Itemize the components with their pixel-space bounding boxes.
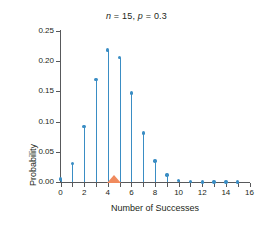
- stem-line: [84, 127, 85, 182]
- data-point: [59, 177, 62, 180]
- stem-line: [120, 58, 121, 182]
- mean-marker-triangle: [107, 175, 121, 183]
- y-tick-label: 0.15: [24, 86, 54, 95]
- data-point: [71, 162, 74, 165]
- x-tick: [179, 183, 180, 187]
- binomial-distribution-figure: n = 15, p = 0.3 0.000.050.100.150.200.25…: [0, 0, 273, 228]
- data-point: [106, 48, 109, 51]
- x-tick: [72, 183, 73, 187]
- x-tick-label: 12: [192, 188, 212, 197]
- x-tick-label: 0: [51, 188, 71, 197]
- data-point: [236, 180, 239, 183]
- x-tick-label: 10: [169, 188, 189, 197]
- x-tick-label: 16: [240, 188, 260, 197]
- x-tick: [143, 183, 144, 187]
- data-point: [224, 180, 227, 183]
- data-point: [153, 159, 156, 162]
- data-point: [130, 91, 133, 94]
- x-tick: [84, 183, 85, 187]
- stem-line: [155, 161, 156, 182]
- x-tick: [96, 183, 97, 187]
- x-tick: [120, 183, 121, 187]
- x-tick: [108, 183, 109, 187]
- x-tick-label: 2: [74, 188, 94, 197]
- y-axis-line: [60, 30, 61, 183]
- y-tick-label: 0.25: [24, 26, 54, 35]
- y-tick: [56, 61, 60, 62]
- stem-line: [143, 133, 144, 182]
- data-point: [142, 131, 145, 134]
- y-tick: [56, 31, 60, 32]
- x-tick-label: 6: [121, 188, 141, 197]
- plot-area: 0.000.050.100.150.200.25 0246810121416: [0, 0, 273, 228]
- y-tick: [56, 122, 60, 123]
- data-point: [165, 173, 168, 176]
- y-tick-label: 0.20: [24, 56, 54, 65]
- x-tick: [250, 183, 251, 187]
- stem-line: [96, 79, 97, 182]
- x-tick-label: 8: [145, 188, 165, 197]
- stem-line: [131, 93, 132, 182]
- x-tick: [131, 183, 132, 187]
- y-tick: [56, 182, 60, 183]
- y-axis-label: Probability: [28, 115, 38, 215]
- data-point: [94, 78, 97, 81]
- y-tick: [56, 91, 60, 92]
- x-tick-label: 14: [216, 188, 236, 197]
- x-tick-label: 4: [98, 188, 118, 197]
- x-tick: [190, 183, 191, 187]
- x-axis-label: Number of Successes: [40, 203, 270, 213]
- stem-line: [108, 50, 109, 182]
- y-tick: [56, 152, 60, 153]
- x-tick: [167, 183, 168, 187]
- x-tick: [61, 183, 62, 187]
- stem-line: [72, 164, 73, 182]
- data-point: [118, 56, 121, 59]
- y-axis-label-wrap: Probability: [14, 56, 26, 156]
- data-point: [212, 180, 215, 183]
- x-tick: [155, 183, 156, 187]
- data-point: [82, 125, 85, 128]
- data-point: [201, 180, 204, 183]
